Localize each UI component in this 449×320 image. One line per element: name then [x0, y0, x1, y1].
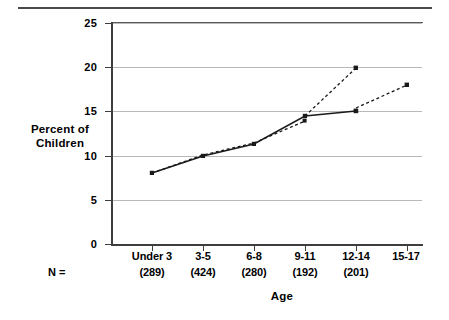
y-axis-line — [111, 22, 113, 246]
n-value-under-3: (289) — [139, 266, 164, 278]
y-tick-label-10: 10 — [84, 150, 97, 162]
series-dashed-marker-15-17 — [405, 83, 409, 87]
series-solid-line — [152, 111, 356, 173]
y-tick-label-15: 15 — [84, 105, 97, 117]
series-dashed-marker-9-11 — [303, 119, 307, 123]
n-value-12-14: (201) — [343, 266, 368, 278]
chart-figure: Percent of Children 25 20 15 10 5 0 Unde… — [0, 0, 449, 320]
n-value-3-5: (424) — [190, 266, 215, 278]
x-tick-label-15-17: 15-17 — [392, 250, 420, 262]
x-axis-label: Age — [252, 290, 312, 302]
y-tick-label-5: 5 — [91, 194, 97, 206]
series-dashed-segment-1 — [152, 121, 305, 173]
gridline-10 — [112, 156, 422, 157]
series-dashed-segment-3 — [356, 85, 407, 108]
n-value-9-11: (192) — [292, 266, 317, 278]
y-tick-label-20: 20 — [84, 61, 97, 73]
series-solid-marker-6-8 — [252, 142, 256, 146]
gridline-5 — [112, 200, 422, 201]
y-tick-mark-10 — [105, 156, 112, 157]
x-tick-label-under-3: Under 3 — [132, 250, 172, 262]
x-tick-label-12-14: 12-14 — [342, 250, 370, 262]
n-value-6-8: (280) — [241, 266, 266, 278]
series-solid-marker-under-3 — [150, 171, 154, 175]
y-axis-label-line2: Children — [14, 136, 106, 150]
y-tick-mark-5 — [105, 200, 112, 201]
y-tick-label-25: 25 — [84, 17, 97, 29]
gridline-15 — [112, 111, 422, 112]
series-layer — [0, 0, 449, 320]
y-axis-label-line1: Percent of — [14, 122, 106, 136]
x-tick-label-9-11: 9-11 — [294, 250, 315, 262]
n-row-prefix: N = — [48, 266, 65, 278]
series-dashed-segment-2 — [305, 68, 356, 116]
gridline-25 — [112, 23, 422, 24]
y-axis-label: Percent of Children — [14, 122, 106, 150]
x-tick-label-3-5: 3-5 — [195, 250, 211, 262]
y-tick-mark-25 — [105, 23, 112, 24]
plot-frame-top — [112, 22, 423, 23]
y-tick-mark-20 — [105, 67, 112, 68]
top-divider-rule — [18, 7, 432, 9]
y-tick-label-0: 0 — [91, 238, 97, 250]
series-solid-marker-9-11 — [303, 114, 307, 118]
y-tick-mark-0 — [105, 244, 112, 245]
gridline-20 — [112, 67, 422, 68]
x-tick-label-6-8: 6-8 — [246, 250, 262, 262]
y-tick-mark-15 — [105, 111, 112, 112]
series-solid — [150, 109, 358, 175]
x-axis-line — [111, 244, 423, 246]
